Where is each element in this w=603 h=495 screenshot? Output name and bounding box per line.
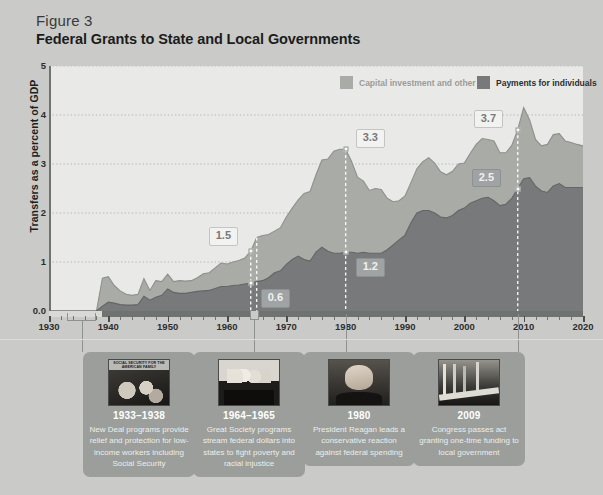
signing-room-art bbox=[219, 360, 279, 405]
card-new-deal-text: New Deal programs provide relief and pro… bbox=[89, 424, 189, 469]
marker-callout-1964-total bbox=[248, 249, 253, 254]
pin-1964-1965 bbox=[250, 311, 259, 320]
poster-banner-text: SOCIAL SECURITY FOR THE AMERICAN FAMILY bbox=[109, 360, 169, 370]
poster-family-art bbox=[109, 370, 169, 406]
bracket-1933-1938 bbox=[67, 313, 97, 321]
card-great-society-year: 1964–1965 bbox=[199, 410, 299, 421]
marker-callout-1964-payments bbox=[248, 281, 253, 286]
callout-2009-total: 3.7 bbox=[474, 110, 503, 129]
card-reagan-text: President Reagan leads a conservative re… bbox=[309, 424, 409, 458]
marker-callout-2009-payments bbox=[515, 186, 520, 191]
card-arra-year: 2009 bbox=[419, 410, 519, 421]
divider-rule bbox=[0, 339, 603, 340]
callout-1980-payments: 1.2 bbox=[356, 258, 385, 277]
marker-callout-1980-total bbox=[343, 147, 348, 152]
card-new-deal[interactable]: SOCIAL SECURITY FOR THE AMERICAN FAMILY1… bbox=[83, 352, 195, 477]
callout-2009-payments: 2.5 bbox=[472, 169, 501, 188]
marker-callout-1980-payments bbox=[343, 250, 348, 255]
signing-ceremony-photo bbox=[218, 359, 280, 406]
card-great-society-text: Great Society programs stream federal do… bbox=[199, 424, 299, 469]
card-new-deal-year: 1933–1938 bbox=[89, 410, 189, 421]
card-reagan[interactable]: 1980President Reagan leads a conservativ… bbox=[303, 352, 415, 466]
leader-2009 bbox=[518, 314, 520, 352]
card-great-society[interactable]: 1964–1965Great Society programs stream f… bbox=[193, 352, 305, 477]
callout-1980-total: 3.3 bbox=[356, 129, 385, 148]
figure-container: Figure 3 Federal Grants to State and Loc… bbox=[0, 0, 603, 495]
leader-1980 bbox=[346, 314, 348, 352]
poster-banner: SOCIAL SECURITY FOR THE AMERICAN FAMILY bbox=[109, 360, 169, 370]
social-security-poster-photo: SOCIAL SECURITY FOR THE AMERICAN FAMILY bbox=[108, 359, 170, 406]
bridge-art bbox=[439, 360, 499, 405]
leader-1933-1938 bbox=[82, 321, 84, 352]
bridge-infrastructure-photo bbox=[438, 359, 500, 406]
cards-layer: SOCIAL SECURITY FOR THE AMERICAN FAMILY1… bbox=[0, 352, 603, 482]
callout-1964-total: 1.5 bbox=[209, 227, 238, 246]
president-reagan-portrait-photo bbox=[328, 359, 390, 406]
reagan-portrait-art bbox=[329, 360, 389, 405]
card-arra-text: Congress passes act granting one-time fu… bbox=[419, 424, 519, 458]
marker-callout-2009-total bbox=[515, 127, 520, 132]
leader-layer bbox=[0, 300, 603, 360]
card-arra[interactable]: 2009Congress passes act granting one-tim… bbox=[413, 352, 525, 466]
callout-layer: 1.50.63.31.23.72.5 bbox=[0, 0, 603, 340]
leader-1964-1965 bbox=[254, 320, 256, 352]
card-reagan-year: 1980 bbox=[309, 410, 409, 421]
